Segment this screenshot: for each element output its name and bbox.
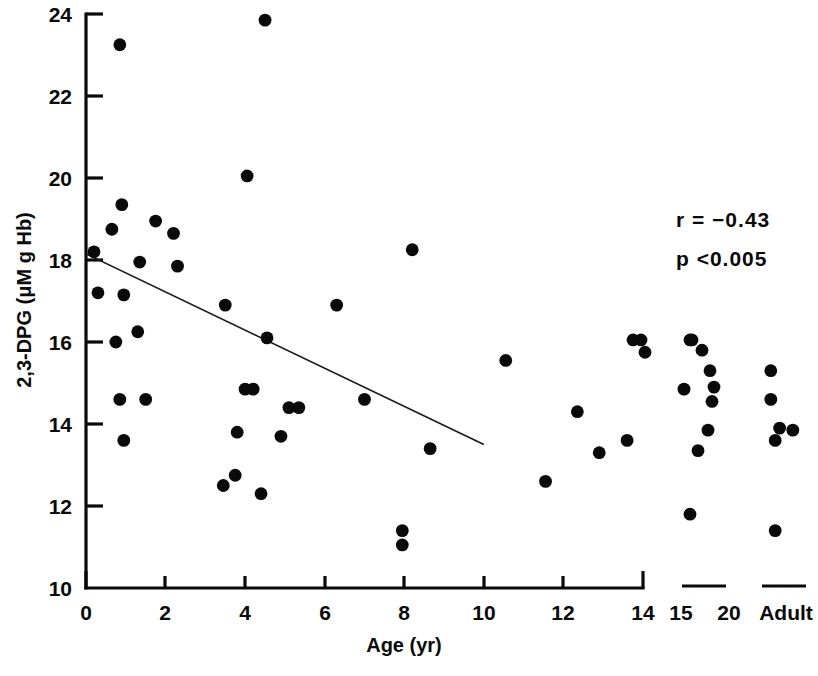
data-point <box>396 524 409 537</box>
data-point <box>764 364 777 377</box>
data-point <box>247 383 260 396</box>
data-point <box>499 354 512 367</box>
data-point <box>171 260 184 273</box>
y-axis-title: 2,3-DPG (μM g Hb) <box>13 212 35 388</box>
regression-trendline <box>86 254 484 445</box>
x-tick-label: 12 <box>551 601 574 624</box>
x-tick-label-adult: Adult <box>759 601 813 624</box>
data-point <box>113 38 126 51</box>
x-tick-label-20: 20 <box>717 601 740 624</box>
data-point <box>396 539 409 552</box>
data-point <box>769 524 782 537</box>
data-point <box>704 364 717 377</box>
x-tick-label-15: 15 <box>669 601 693 624</box>
data-point <box>769 434 782 447</box>
data-point <box>115 198 128 211</box>
y-tick-label: 16 <box>49 331 72 354</box>
data-point <box>167 227 180 240</box>
data-point <box>571 405 584 418</box>
data-point <box>117 288 130 301</box>
x-axis-title: Age (yr) <box>366 634 442 656</box>
data-point <box>149 215 162 228</box>
data-point <box>786 424 799 437</box>
data-point <box>678 383 691 396</box>
data-point <box>708 381 721 394</box>
x-tick-labels: 0 2 4 6 8 10 12 14 15 20 Adult <box>80 601 813 624</box>
x-tick-label: 6 <box>319 601 331 624</box>
x-tick-label: 4 <box>239 601 251 624</box>
data-points-group <box>88 14 800 552</box>
pvalue-annotation: p <0.005 <box>676 247 767 270</box>
data-point <box>133 256 146 269</box>
x-tick-label: 14 <box>631 601 655 624</box>
data-point <box>261 332 274 345</box>
data-point <box>639 346 652 359</box>
data-point <box>292 401 305 414</box>
data-point <box>358 393 371 406</box>
x-tick-label: 10 <box>472 601 495 624</box>
data-point <box>229 469 242 482</box>
y-tick-label: 10 <box>49 577 72 600</box>
y-tick-label: 24 <box>49 3 73 26</box>
data-point <box>702 424 715 437</box>
data-point <box>92 286 105 299</box>
y-tick-label: 14 <box>49 413 73 436</box>
data-point <box>219 299 232 312</box>
x-tick-label: 2 <box>159 601 171 624</box>
y-tick-label: 22 <box>49 85 72 108</box>
x-axis <box>86 571 643 588</box>
y-tick-label: 12 <box>49 495 72 518</box>
y-tick-label: 18 <box>49 249 73 272</box>
correlation-annotation: r = −0.43 <box>676 208 770 231</box>
x-tick-label: 0 <box>80 601 92 624</box>
data-point <box>241 170 254 183</box>
data-point <box>275 430 288 443</box>
data-point <box>109 336 122 349</box>
data-point <box>696 344 709 357</box>
data-point <box>764 393 777 406</box>
data-point <box>330 299 343 312</box>
data-point <box>113 393 126 406</box>
plot-canvas: 24 22 20 18 16 14 12 10 0 2 4 6 8 10 12 … <box>0 0 818 676</box>
data-point <box>593 446 606 459</box>
data-point <box>706 395 719 408</box>
data-point <box>686 334 699 347</box>
y-tick-label: 20 <box>49 167 72 190</box>
data-point <box>255 487 268 500</box>
data-point <box>684 508 697 521</box>
data-point <box>621 434 634 447</box>
y-axis <box>86 14 103 588</box>
data-point <box>88 245 101 258</box>
data-point <box>259 14 272 27</box>
data-point <box>131 325 144 338</box>
data-point <box>105 223 118 236</box>
data-point <box>773 422 786 435</box>
data-point <box>692 444 705 457</box>
data-point <box>424 442 437 455</box>
data-point <box>539 475 552 488</box>
data-point <box>139 393 152 406</box>
data-point <box>635 334 648 347</box>
y-tick-labels: 24 22 20 18 16 14 12 10 <box>49 3 73 600</box>
scatter-plot-figure: 24 22 20 18 16 14 12 10 0 2 4 6 8 10 12 … <box>0 0 818 676</box>
data-point <box>231 426 244 439</box>
data-point <box>117 434 130 447</box>
data-point <box>406 243 419 256</box>
data-point <box>217 479 230 492</box>
x-tick-label: 8 <box>398 601 410 624</box>
